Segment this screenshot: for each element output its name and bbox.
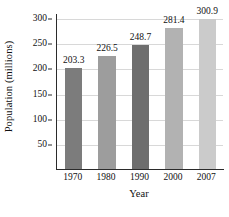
plot-area: 203.3226.5248.7281.4300.9 [56,14,223,170]
bar-value-label: 248.7 [130,33,151,43]
y-axis-tick-label: 250 [33,39,47,49]
bar-value-label: 300.9 [197,7,218,17]
y-axis-tick-label: 50 [38,140,48,150]
y-axis-tick-label: 200 [33,65,47,75]
bar-value-label: 281.4 [163,16,184,26]
x-axis-tick-label: 2007 [197,173,216,183]
bar-value-label: 226.5 [96,44,117,54]
x-axis-tick-label: 1990 [130,173,149,183]
y-axis-tick-mark [48,119,52,120]
x-axis-tick-label: 2000 [163,173,182,183]
bar [165,28,182,170]
y-axis-tick-label: 100 [33,115,47,125]
y-axis-tick-mark [48,44,52,45]
y-axis-tick-mark [48,144,52,145]
y-axis-tick-mark [48,19,52,20]
y-axis-tick-label: 150 [33,90,47,100]
bar [65,68,82,170]
y-axis-tick-labels: 50100150200250300 [18,0,52,172]
bar-value-label: 203.3 [63,56,84,66]
y-axis-tick-label: 300 [33,14,47,24]
x-axis-tick-label: 1970 [63,173,82,183]
y-axis-tick-mark [48,69,52,70]
y-axis-tick-mark [48,94,52,95]
y-axis-title-text: Population (millions) [4,40,15,132]
x-axis-tick-label: 1980 [97,173,116,183]
x-axis-line [56,169,224,170]
bar-chart-figure: Population (millions) 50100150200250300 … [0,0,229,217]
x-axis-tick-labels: 19701980199020002007 [56,172,222,188]
bar [98,56,115,170]
bar [199,19,216,170]
y-axis-title: Population (millions) [0,0,18,172]
bar [132,45,149,170]
x-axis-title: Year [56,188,222,199]
